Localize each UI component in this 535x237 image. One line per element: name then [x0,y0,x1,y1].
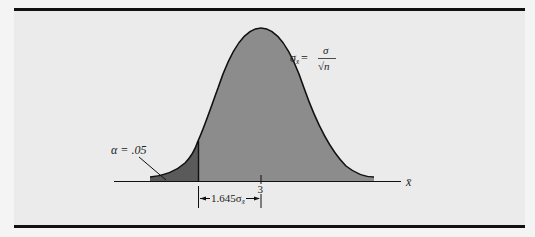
figure: α = .05 3 x̄ 1.645σx̄ σx̄= σ √n [0,0,535,237]
mean-label: 3 [258,183,264,195]
rejection-tail [150,141,198,181]
alpha-label: α = .05 [111,143,146,157]
arrowhead-right-icon [254,197,260,201]
svg-text:σx̄=: σx̄= [290,51,308,66]
distribution-plot: α = .05 3 x̄ 1.645σx̄ σx̄= σ √n [0,0,535,237]
axis-label: x̄ [405,175,412,189]
dimension-label: 1.645σx̄ [211,192,246,206]
distribution-body [198,28,374,181]
arrowhead-left-icon [200,197,206,201]
svg-text:σ: σ [323,44,329,56]
svg-text:√n: √n [318,60,330,72]
